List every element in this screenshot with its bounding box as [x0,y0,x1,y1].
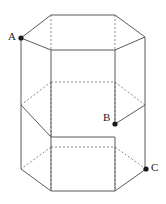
hidden-edge-mid1-back-left-diag [21,82,51,105]
edge-mid1-front-left-diag [21,105,51,137]
hidden-edges-group [21,15,146,191]
vertex-label-a: A [8,31,16,42]
vertex-label-b: B [103,112,110,123]
edge-top-front-left-diag [21,38,51,50]
hidden-edge-mid2-back-left-diag [21,147,51,169]
vertex-dot-a [18,35,23,40]
vertex-dots-group [18,35,148,171]
vertex-dot-b [112,121,117,126]
hexagonal-prism-figure: A B C [0,0,166,204]
edge-top-back-left-diag [21,15,51,38]
edge-bottom-front-left-diag [21,169,51,191]
prism-drawing-canvas [0,0,166,204]
edge-bottom-front-right-diag [115,169,146,191]
vertex-label-c: C [151,162,158,173]
hidden-edge-mid1-back-right-diag [115,82,145,105]
vertex-dot-c [143,166,148,171]
edge-top-front-right-diag [115,37,145,50]
hidden-edge-mid2-back-right-diag [115,147,146,169]
edge-mid1-front-right-diag [115,105,145,124]
edge-top-back-right-diag [115,15,145,37]
visible-edges-group [21,15,146,191]
